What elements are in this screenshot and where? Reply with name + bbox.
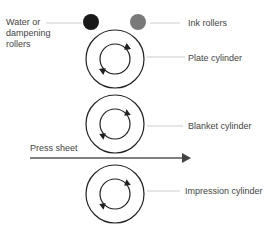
water-roller-icon (83, 14, 99, 30)
ink-rollers-label: Ink rollers (188, 18, 227, 29)
blanket-cylinder-icon (86, 95, 144, 153)
water-rollers-line-1: Water or (6, 17, 51, 28)
plate-cylinder-icon (86, 30, 144, 88)
press-sheet-label: Press sheet (30, 143, 78, 154)
plate-cylinder-label: Plate cylinder (188, 53, 242, 64)
blanket-cylinder-label: Blanket cylinder (188, 121, 252, 132)
impression-cylinder-icon (86, 165, 144, 223)
water-rollers-label: Water or dampening rollers (6, 17, 51, 50)
water-rollers-line-3: rollers (6, 39, 51, 50)
ink-roller-icon (130, 14, 146, 30)
water-rollers-line-2: dampening (6, 28, 51, 39)
arrow-head-icon (182, 153, 191, 163)
impression-cylinder-label: Impression cylinder (185, 186, 263, 197)
